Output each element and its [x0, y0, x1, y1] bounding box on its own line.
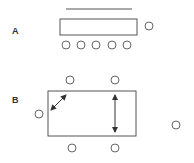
- panel-b-circles: [35, 76, 180, 152]
- panel-a: A: [12, 9, 153, 49]
- panel-b: B: [12, 76, 180, 152]
- panel-b-circle-4: [172, 121, 180, 129]
- panel-b-label: B: [12, 95, 19, 105]
- panel-a-rectangle: [60, 19, 137, 35]
- panel-a-circle-4: [92, 41, 100, 49]
- panel-a-label: A: [12, 26, 19, 36]
- panel-a-circle-5: [108, 41, 116, 49]
- diagram-canvas: A B: [0, 0, 194, 163]
- panel-b-rectangle: [48, 91, 136, 136]
- diagonal-double-arrow-icon: [51, 95, 66, 110]
- panel-a-circle-3: [77, 41, 85, 49]
- panel-b-circle-2: [111, 76, 119, 84]
- panel-b-circle-6: [111, 144, 119, 152]
- panel-b-circle-5: [68, 144, 76, 152]
- panel-b-circle-3: [35, 110, 43, 118]
- panel-a-circle-6: [123, 41, 131, 49]
- panel-a-circle-1: [145, 22, 153, 30]
- panel-a-circle-2: [62, 41, 70, 49]
- panel-b-circle-1: [66, 76, 74, 84]
